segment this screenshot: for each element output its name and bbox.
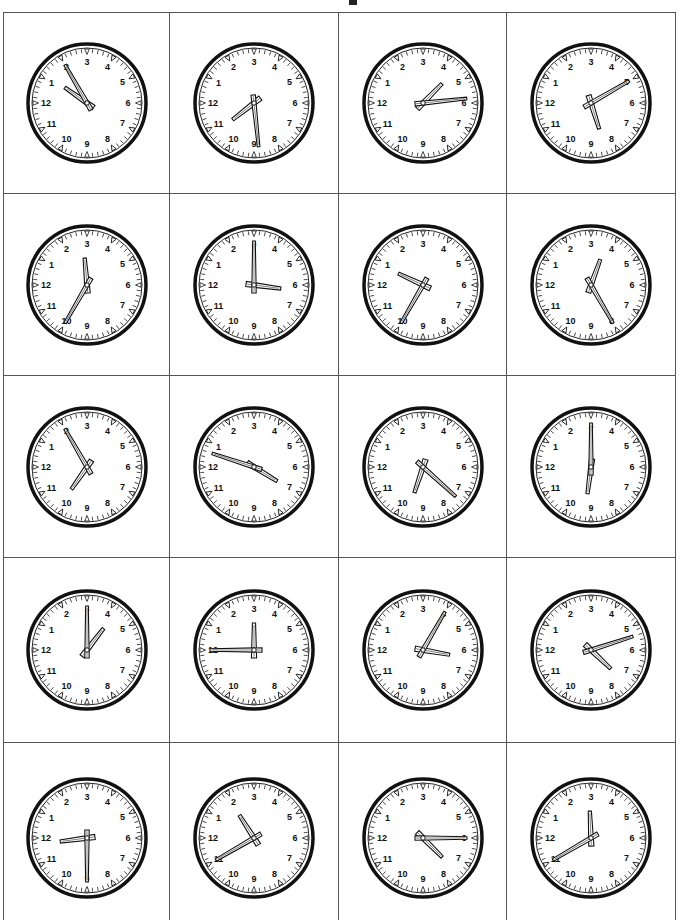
numeral: 10	[61, 134, 71, 144]
numeral: 8	[440, 681, 445, 691]
numeral: 1	[48, 259, 53, 269]
numeral: 3	[588, 792, 593, 802]
numeral: 7	[287, 853, 292, 863]
numeral: 1	[216, 441, 221, 451]
numeral: 12	[40, 462, 50, 472]
numeral: 2	[568, 426, 573, 436]
clock-cell: 121234567891011	[507, 13, 676, 194]
numeral: 5	[119, 625, 124, 635]
clock-icon: 121234567891011	[361, 776, 485, 900]
numeral: 9	[251, 503, 256, 513]
numeral: 12	[376, 645, 386, 655]
numeral: 9	[84, 139, 89, 149]
numeral: 9	[588, 874, 593, 884]
clock-cell: 121234567891011	[170, 743, 339, 920]
numeral: 1	[553, 259, 558, 269]
clock-icon: 121234567891011	[192, 776, 316, 900]
numeral: 9	[420, 874, 425, 884]
numeral: 12	[545, 98, 555, 108]
clock-cell: 121234567891011	[507, 376, 676, 558]
numeral: 7	[287, 482, 292, 492]
numeral: 6	[292, 280, 297, 290]
numeral: 9	[588, 321, 593, 331]
numeral: 11	[382, 666, 392, 676]
numeral: 3	[420, 604, 425, 614]
numeral: 3	[251, 421, 256, 431]
numeral: 7	[624, 119, 629, 129]
numeral: 12	[545, 462, 555, 472]
numeral: 3	[84, 792, 89, 802]
numeral: 4	[104, 797, 109, 807]
numeral: 5	[287, 78, 292, 88]
numeral: 10	[228, 497, 238, 507]
clock-icon: 121234567891011	[25, 41, 149, 165]
numeral: 7	[287, 300, 292, 310]
numeral: 6	[629, 645, 634, 655]
numeral: 7	[119, 300, 124, 310]
numeral: 11	[551, 300, 561, 310]
numeral: 6	[461, 462, 466, 472]
numeral: 9	[251, 686, 256, 696]
clock-cell: 121234567891011	[507, 194, 676, 376]
clock-icon: 121234567891011	[529, 588, 653, 712]
numeral: 11	[46, 853, 56, 863]
numeral: 7	[624, 300, 629, 310]
clock-grid: 1212345678910111212345678910111212345678…	[3, 12, 676, 920]
numeral: 7	[624, 853, 629, 863]
clock-icon: 121234567891011	[529, 41, 653, 165]
numeral: 1	[48, 441, 53, 451]
numeral: 7	[455, 666, 460, 676]
hour-hand	[251, 623, 256, 658]
numeral: 8	[609, 497, 614, 507]
numeral: 6	[292, 462, 297, 472]
clock-icon: 121234567891011	[25, 776, 149, 900]
numeral: 7	[455, 300, 460, 310]
numeral: 5	[119, 441, 124, 451]
numeral: 12	[208, 462, 218, 472]
numeral: 1	[216, 625, 221, 635]
numeral: 10	[565, 497, 575, 507]
numeral: 1	[384, 625, 389, 635]
numeral: 3	[588, 57, 593, 67]
numeral: 4	[609, 62, 614, 72]
clock-cell: 121234567891011	[339, 13, 507, 194]
numeral: 8	[272, 134, 277, 144]
numeral: 7	[455, 482, 460, 492]
numeral: 11	[382, 119, 392, 129]
numeral: 2	[568, 62, 573, 72]
clock-cell: 121234567891011	[339, 194, 507, 376]
numeral: 6	[461, 280, 466, 290]
numeral: 8	[272, 681, 277, 691]
numeral: 10	[61, 681, 71, 691]
numeral: 10	[397, 134, 407, 144]
numeral: 4	[272, 797, 277, 807]
numeral: 6	[461, 645, 466, 655]
numeral: 1	[48, 78, 53, 88]
clock-icon: 121234567891011	[192, 588, 316, 712]
numeral: 4	[609, 797, 614, 807]
numeral: 12	[376, 462, 386, 472]
numeral: 11	[214, 482, 224, 492]
numeral: 7	[119, 482, 124, 492]
numeral: 9	[420, 686, 425, 696]
numeral: 11	[46, 119, 56, 129]
numeral: 1	[216, 812, 221, 822]
numeral: 11	[551, 119, 561, 129]
numeral: 2	[568, 244, 573, 254]
clock-cell: 121234567891011	[170, 194, 339, 376]
numeral: 7	[119, 853, 124, 863]
numeral: 9	[84, 321, 89, 331]
clock-cell: 121234567891011	[4, 376, 170, 558]
numeral: 8	[440, 134, 445, 144]
clock-icon: 121234567891011	[361, 41, 485, 165]
clock-icon: 121234567891011	[361, 588, 485, 712]
numeral: 3	[588, 239, 593, 249]
numeral: 3	[420, 57, 425, 67]
clock-cell: 121234567891011	[4, 558, 170, 743]
numeral: 10	[565, 134, 575, 144]
numeral: 1	[216, 259, 221, 269]
numeral: 9	[588, 139, 593, 149]
numeral: 1	[48, 812, 53, 822]
numeral: 11	[382, 482, 392, 492]
numeral: 12	[376, 280, 386, 290]
